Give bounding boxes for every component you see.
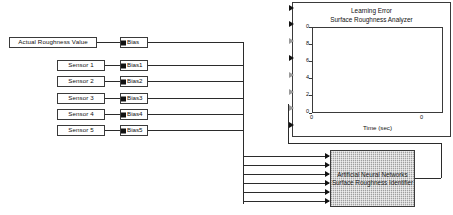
wire-bus-vertical-drop: [243, 130, 244, 152]
scope-title-line2: Surface Roughness Analyzer: [293, 17, 450, 24]
block-scope-surface-roughness-analyzer[interactable]: Learning Error Surface Roughness Analyze…: [292, 2, 451, 137]
scope-input-arrow-2-icon: [289, 21, 294, 27]
block-actual-roughness-value[interactable]: Actual Roughness Value: [9, 37, 97, 48]
y-tick-mark: [309, 44, 312, 45]
input-port-icon: [121, 128, 126, 133]
wire-ann-in-5: [243, 192, 329, 193]
block-bias-3[interactable]: Bias3: [120, 93, 148, 104]
wire-ann-in-3: [243, 174, 329, 175]
wire-bus-vertical-top: [243, 42, 244, 131]
ann-label-line2: Surface Roughness Identifier: [331, 179, 414, 186]
block-bias-2[interactable]: Bias2: [120, 76, 148, 87]
block-label: Bias2: [127, 78, 142, 84]
wire-ann-in-4: [243, 183, 329, 184]
input-port-icon: [121, 112, 126, 117]
wire-bias-0-out: [148, 42, 243, 43]
y-tick-mark: [309, 61, 312, 62]
scope-input-arrow-5-icon: [289, 72, 294, 78]
y-tick-label-3: 6: [301, 58, 309, 64]
block-sensor-5[interactable]: Sensor 5: [57, 125, 105, 136]
block-label: Actual Roughness Value: [18, 39, 88, 45]
scope-input-arrow-7-icon: [289, 105, 294, 111]
x-axis-label: Time (sec): [312, 125, 443, 131]
scope-input-arrow-8-icon: [289, 122, 294, 128]
wire-source-to-bias-0: [97, 42, 120, 43]
wire-feedback-top: [288, 143, 441, 144]
wire-ann-in-1: [243, 156, 329, 157]
input-port-icon: [121, 79, 126, 84]
block-sensor-2[interactable]: Sensor 2: [57, 76, 105, 87]
block-label: Bias4: [127, 111, 142, 117]
y-tick-label-1: 2: [301, 92, 309, 98]
wire-bias-2-out: [148, 81, 243, 82]
wire-bias-4-out: [148, 114, 243, 115]
input-port-icon: [121, 40, 126, 45]
wire-ann-in-2: [243, 165, 329, 166]
block-bias-1[interactable]: Bias1: [120, 60, 148, 71]
wire-source-to-bias-1: [105, 65, 120, 66]
plot-area: [312, 27, 443, 113]
x-tick-label-0: 0: [310, 115, 313, 121]
block-label: Sensor 3: [68, 95, 94, 101]
wire-fanout-bus: [243, 152, 244, 204]
block-artificial-neural-networks[interactable]: Artificial Neural Networks Surface Rough…: [330, 150, 415, 207]
block-sensor-1[interactable]: Sensor 1: [57, 60, 105, 71]
scope-input-arrow-3-icon: [289, 38, 294, 44]
y-tick-mark: [309, 95, 312, 96]
wire-bias-5-out: [148, 130, 243, 131]
block-label: Sensor 5: [68, 127, 94, 133]
wire-source-to-bias-3: [105, 98, 120, 99]
ann-label-line1: Artificial Neural Networks: [331, 171, 414, 178]
block-sensor-3[interactable]: Sensor 3: [57, 93, 105, 104]
wire-source-to-bias-5: [105, 130, 120, 131]
block-label: Bias: [127, 39, 139, 45]
input-port-icon: [121, 96, 126, 101]
wire-source-to-bias-2: [105, 81, 120, 82]
wire-bias-3-out: [148, 98, 243, 99]
scope-input-arrow-4-icon: [289, 55, 294, 61]
y-tick-mark: [309, 27, 312, 28]
block-bias-4[interactable]: Bias4: [120, 109, 148, 120]
scope-input-arrow-1-icon: [289, 5, 294, 11]
y-tick-label-2: 4: [301, 75, 309, 81]
simulink-diagram-canvas: Actual Roughness Value Sensor 1 Sensor 2…: [0, 0, 453, 215]
y-tick-label-5: 0: [301, 24, 309, 30]
wire-source-to-bias-4: [105, 114, 120, 115]
wire-ann-out: [415, 178, 441, 179]
y-tick-label-0: 0: [301, 109, 309, 115]
block-label: Bias3: [127, 95, 142, 101]
wire-ann-in-6: [243, 201, 329, 202]
y-tick-label-4: 8: [301, 41, 309, 47]
scope-input-arrow-6-icon: [289, 89, 294, 95]
scope-title-line1: Learning Error: [293, 8, 450, 15]
x-tick-label-1: 0: [420, 115, 423, 121]
block-bias-5[interactable]: Bias5: [120, 125, 148, 136]
wire-feedback-vertical: [441, 143, 442, 178]
wire-bias-1-out: [148, 65, 243, 66]
block-bias-0[interactable]: Bias: [120, 37, 148, 48]
block-label: Sensor 4: [68, 111, 94, 117]
block-label: Sensor 2: [68, 78, 94, 84]
block-label: Bias1: [127, 62, 142, 68]
input-port-icon: [121, 63, 126, 68]
block-label: Sensor 1: [68, 62, 94, 68]
y-tick-mark: [309, 78, 312, 79]
block-label: Bias5: [127, 127, 142, 133]
block-sensor-4[interactable]: Sensor 4: [57, 109, 105, 120]
